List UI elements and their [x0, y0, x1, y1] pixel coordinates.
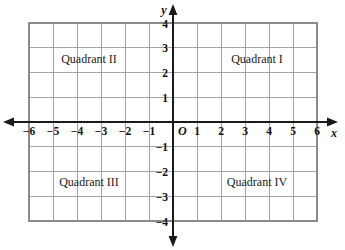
x-tick-label: 4	[266, 125, 272, 137]
x-tick-label: −5	[47, 125, 60, 137]
x-tick-label: −6	[23, 125, 36, 137]
y-tick-label: −4	[156, 216, 169, 228]
y-tick-label: 2	[162, 67, 168, 79]
y-tick-label: 1	[162, 92, 168, 104]
coordinate-plane-figure: −6 −5 −4 −3 −2 −1 1 2 3 4 5 6 4 3 2 1 −1…	[0, 0, 345, 250]
x-tick-label: 5	[290, 125, 296, 137]
y-tick-label: 4	[162, 18, 168, 30]
y-axis-name-label: y	[159, 3, 167, 17]
x-tick-label: −3	[95, 125, 108, 137]
quadrant-label-iii: Quadrant III	[59, 175, 119, 189]
quadrant-label-ii: Quadrant II	[61, 52, 117, 66]
y-tick-label: −3	[156, 191, 169, 203]
x-tick-label: −2	[119, 125, 132, 137]
quadrant-label-iv: Quadrant IV	[227, 175, 288, 189]
y-tick-label: −2	[156, 166, 169, 178]
x-tick-label: 2	[218, 125, 224, 137]
x-axis-name-label: x	[330, 126, 337, 140]
y-tick-label: −1	[156, 141, 169, 153]
quadrant-label-i: Quadrant I	[231, 52, 283, 66]
x-tick-label: 3	[242, 125, 248, 137]
y-tick-label: 3	[162, 42, 168, 54]
x-tick-label: −1	[143, 125, 156, 137]
origin-label: O	[178, 124, 187, 138]
x-tick-label: 6	[314, 125, 320, 137]
x-tick-label: 1	[194, 125, 200, 137]
x-tick-label: −4	[71, 125, 84, 137]
